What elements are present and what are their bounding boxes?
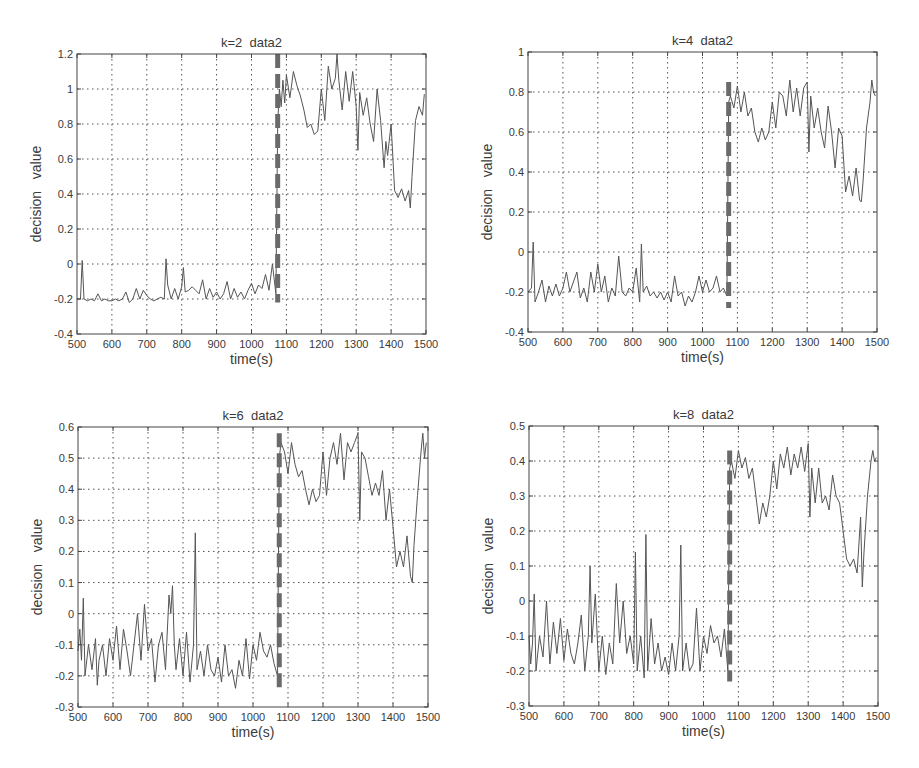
x-tick-label: 800	[174, 711, 192, 723]
y-tick-label: -0.4	[505, 326, 524, 338]
decision-value-line	[77, 54, 424, 303]
y-tick-label: -0.2	[54, 293, 73, 305]
chart-k2: 500600700800900100011001200130014001500-…	[0, 0, 460, 380]
y-tick-label: -0.3	[55, 701, 74, 713]
x-tick-label: 700	[139, 711, 157, 723]
x-tick-label: 700	[589, 336, 607, 348]
x-tick-label: 600	[555, 710, 573, 722]
y-tick-label: -0.4	[54, 328, 73, 340]
y-tick-label: -0.2	[55, 670, 74, 682]
x-tick-label: 1100	[276, 711, 300, 723]
x-tick-label: 1000	[239, 338, 263, 350]
y-tick-label: 0.5	[59, 452, 74, 464]
y-tick-label: 0.4	[59, 483, 74, 495]
chart-title: k=4 data2	[672, 33, 733, 48]
x-tick-label: 900	[658, 336, 676, 348]
y-tick-label: 0.2	[509, 206, 524, 218]
y-tick-label: 0.8	[58, 118, 73, 130]
x-tick-label: 700	[590, 710, 608, 722]
x-tick-label: 700	[138, 338, 156, 350]
chart-k6: 500600700800900100011001200130014001500-…	[0, 380, 460, 768]
y-tick-label: 0.4	[509, 166, 524, 178]
x-tick-label: 1100	[726, 336, 750, 348]
y-tick-label: 0.4	[510, 455, 525, 467]
y-axis-label: decision value	[28, 146, 44, 243]
y-tick-label: 0.4	[58, 188, 73, 200]
x-axis-label: time(s)	[232, 724, 275, 740]
x-axis-label: time(s)	[230, 351, 273, 367]
y-axis-label: decision value	[479, 144, 495, 241]
x-tick-label: 1300	[795, 336, 819, 348]
chart-title: k=6 data2	[222, 408, 283, 423]
grid-lines	[529, 426, 878, 706]
x-tick-label: 800	[625, 710, 643, 722]
y-tick-label: 1.2	[58, 48, 73, 60]
x-tick-label: 800	[173, 338, 191, 350]
x-tick-label: 600	[104, 711, 122, 723]
x-axis-label: time(s)	[682, 723, 725, 739]
chart-k4: 500600700800900100011001200130014001500-…	[460, 0, 919, 380]
x-tick-label: 1400	[379, 338, 403, 350]
y-tick-label: 0.3	[510, 490, 525, 502]
grid-lines	[78, 427, 428, 707]
y-tick-label: 0	[68, 608, 74, 620]
x-tick-label: 1400	[830, 336, 854, 348]
y-tick-label: 0.2	[58, 223, 73, 235]
chart-svg: 500600700800900100011001200130014001500-…	[460, 0, 919, 380]
y-tick-label: 0.1	[510, 560, 525, 572]
y-tick-label: -0.2	[505, 286, 524, 298]
x-tick-label: 900	[207, 338, 225, 350]
x-tick-label: 1200	[761, 710, 785, 722]
y-tick-label: 0.5	[510, 420, 525, 432]
decision-value-line	[529, 444, 876, 679]
y-tick-label: 0	[519, 595, 525, 607]
grid-lines	[77, 54, 426, 334]
y-tick-label: 0.8	[509, 86, 524, 98]
x-tick-label: 800	[624, 336, 642, 348]
y-tick-label: 1	[518, 46, 524, 58]
x-tick-label: 1100	[727, 710, 751, 722]
y-axis-label: decision value	[480, 518, 496, 615]
y-tick-label: 0.6	[59, 421, 74, 433]
y-tick-label: 0.6	[509, 126, 524, 138]
x-tick-label: 1500	[866, 710, 890, 722]
x-tick-label: 600	[103, 338, 121, 350]
x-tick-label: 1200	[311, 711, 335, 723]
y-tick-label: 0.3	[59, 514, 74, 526]
chart-title: k=8 data2	[673, 407, 734, 422]
x-axis-label: time(s)	[681, 349, 724, 365]
y-tick-label: 0.2	[59, 545, 74, 557]
x-tick-label: 900	[659, 710, 677, 722]
y-tick-label: 0.1	[59, 577, 74, 589]
y-tick-label: -0.2	[506, 665, 525, 677]
y-tick-label: 0.6	[58, 153, 73, 165]
x-tick-label: 1400	[831, 710, 855, 722]
x-tick-label: 1300	[796, 710, 820, 722]
y-tick-label: -0.3	[506, 700, 525, 712]
y-tick-label: 0.2	[510, 525, 525, 537]
chart-svg: 500600700800900100011001200130014001500-…	[460, 380, 919, 768]
chart-k8: 500600700800900100011001200130014001500-…	[460, 380, 919, 768]
x-tick-label: 1000	[691, 710, 715, 722]
x-tick-label: 1300	[344, 338, 368, 350]
x-tick-label: 1500	[416, 711, 440, 723]
x-tick-label: 1100	[275, 338, 299, 350]
x-tick-label: 1200	[760, 336, 784, 348]
x-tick-label: 600	[554, 336, 572, 348]
x-tick-label: 1500	[414, 338, 438, 350]
y-axis-label: decision value	[29, 519, 45, 616]
chart-svg: 500600700800900100011001200130014001500-…	[0, 380, 460, 768]
x-tick-label: 1500	[865, 336, 889, 348]
decision-value-line	[528, 80, 875, 306]
y-tick-label: 1	[67, 83, 73, 95]
y-tick-label: 0	[67, 258, 73, 270]
chart-title: k=2 data2	[221, 35, 282, 50]
x-tick-label: 1000	[690, 336, 714, 348]
x-tick-label: 1300	[346, 711, 370, 723]
x-tick-label: 900	[209, 711, 227, 723]
y-tick-label: -0.1	[55, 639, 74, 651]
y-tick-label: 0	[518, 246, 524, 258]
x-tick-label: 1200	[309, 338, 333, 350]
chart-svg: 500600700800900100011001200130014001500-…	[0, 0, 460, 380]
x-tick-label: 1400	[381, 711, 405, 723]
